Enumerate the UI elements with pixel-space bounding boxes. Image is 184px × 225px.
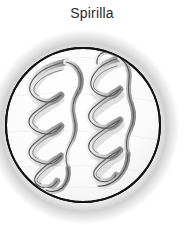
spirilla-figure: Spirilla <box>0 0 184 225</box>
microscope-field-svg <box>0 0 184 225</box>
microscope-field-container <box>0 0 184 225</box>
